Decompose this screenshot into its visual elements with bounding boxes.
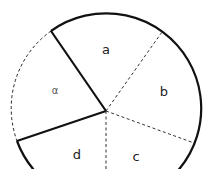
radius-lower-left [17, 111, 106, 141]
sector-label-b: b [160, 84, 168, 99]
circle-sector-diagram: a b c d α [0, 0, 211, 169]
radius-a-b [106, 32, 162, 111]
sector-label-d: d [73, 147, 81, 162]
outer-arc-solid [17, 13, 201, 169]
sector-label-a: a [102, 42, 110, 57]
sector-label-c: c [132, 149, 139, 164]
outer-arc-dashed [11, 31, 51, 141]
radius-upper-left [51, 31, 106, 111]
radius-b-c [106, 111, 194, 143]
sector-label-left: α [52, 85, 59, 96]
